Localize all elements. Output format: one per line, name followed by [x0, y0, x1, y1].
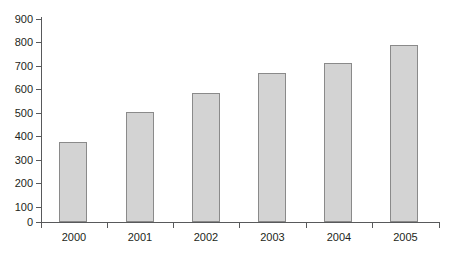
x-axis-line	[41, 222, 440, 223]
bar[interactable]	[59, 142, 87, 222]
bars-layer	[0, 0, 453, 222]
x-axis-tick	[41, 223, 42, 228]
bar-chart: 900 800 700 600 500 400 300 200 100 0	[0, 0, 453, 259]
x-axis-tick	[239, 223, 240, 228]
x-axis-tick	[107, 223, 108, 228]
x-axis-tick	[306, 223, 307, 228]
x-axis-tick-label: 2001	[107, 231, 173, 243]
x-axis-tick	[372, 223, 373, 228]
bar[interactable]	[258, 73, 286, 223]
x-axis-tick-label: 2005	[372, 231, 439, 243]
bar[interactable]	[126, 112, 154, 222]
x-axis-tick-label: 2002	[173, 231, 239, 243]
bar[interactable]	[390, 45, 418, 223]
x-axis-tick-label: 2003	[239, 231, 306, 243]
bar[interactable]	[192, 93, 220, 222]
x-axis-tick	[173, 223, 174, 228]
x-axis-tick-label: 2004	[306, 231, 372, 243]
x-axis-tick-label: 2000	[41, 231, 107, 243]
x-axis-tick	[439, 223, 440, 228]
bar[interactable]	[324, 63, 352, 222]
